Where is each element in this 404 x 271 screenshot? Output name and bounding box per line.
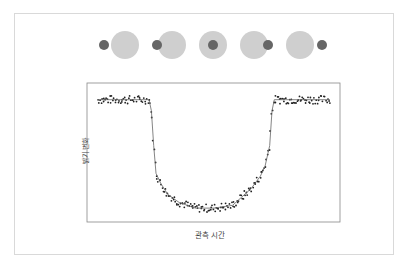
star-icon bbox=[286, 31, 314, 59]
star-icon bbox=[158, 31, 186, 59]
x-axis-label: 관측 시간 bbox=[170, 229, 250, 240]
planet-icon bbox=[317, 40, 327, 50]
plot-area bbox=[87, 83, 340, 222]
y-axis-label: 밝기 변화 bbox=[80, 136, 90, 166]
planet-icon bbox=[99, 40, 109, 50]
star-icon bbox=[111, 31, 139, 59]
planet-icon bbox=[208, 40, 218, 50]
planet-icon bbox=[263, 40, 273, 50]
planet-icon bbox=[152, 40, 162, 50]
transit-phases bbox=[99, 31, 327, 59]
